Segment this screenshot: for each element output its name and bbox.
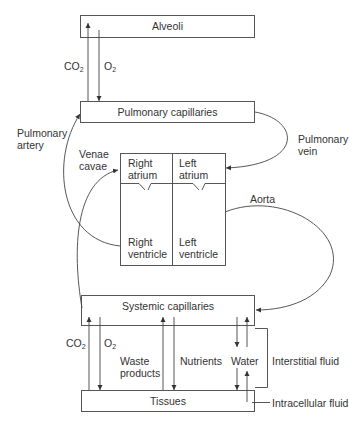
pulmonary-artery-line1: Pulmonary: [17, 127, 67, 139]
pulmonary-artery-path: [64, 114, 120, 246]
pulmonary-vein-label: Pulmonary vein: [298, 133, 348, 157]
aorta-label: Aorta: [250, 193, 275, 205]
left-ventricle-line2: ventricle: [179, 248, 218, 260]
left-atrium-line2: atrium: [179, 169, 208, 181]
circulation-diagram-lines: [0, 0, 363, 432]
venae-cavae-label: Venae cavae: [79, 148, 109, 172]
waste-line1: Waste: [120, 355, 160, 367]
co2-tissues-sub: 2: [82, 343, 86, 350]
tissues-label: Tissues: [81, 395, 255, 407]
left-ventricle-line1: Left: [179, 236, 218, 248]
systemic-capillaries-label: Systemic capillaries: [81, 300, 255, 312]
o2-lungs-sub: 2: [112, 66, 116, 73]
right-atrium-line1: Right: [128, 157, 157, 169]
co2-lungs-base: CO: [64, 60, 80, 72]
nutrients-label: Nutrients: [180, 355, 222, 367]
pulmonary-vein-path: [226, 112, 287, 168]
interstitial-fluid-label: Interstitial fluid: [272, 355, 339, 367]
water-label: Water: [231, 355, 259, 367]
pulmonary-vein-line1: Pulmonary: [298, 133, 348, 145]
aorta-path: [225, 206, 333, 310]
pulmonary-capillaries-label: Pulmonary capillaries: [80, 106, 255, 118]
pulmonary-vein-line2: vein: [298, 145, 348, 157]
o2-tissues-base: O: [104, 337, 112, 349]
co2-tissues-base: CO: [66, 337, 82, 349]
waste-line2: products: [120, 367, 160, 379]
o2-tissues-sub: 2: [112, 343, 116, 350]
left-ventricle-label: Left ventricle: [179, 236, 218, 260]
venae-cavae-line1: Venae: [79, 148, 109, 160]
co2-lungs-sub: 2: [80, 66, 84, 73]
co2-label-lungs: CO2: [64, 60, 84, 76]
venae-cavae-line2: cavae: [79, 160, 109, 172]
left-atrium-line1: Left: [179, 157, 208, 169]
o2-lungs-base: O: [104, 60, 112, 72]
right-ventricle-line1: Right: [128, 236, 167, 248]
left-atrium-label: Left atrium: [179, 157, 208, 181]
o2-label-lungs: O2: [104, 60, 116, 76]
co2-label-tissues: CO2: [66, 337, 86, 353]
right-atrium-label: Right atrium: [128, 157, 157, 181]
alveoli-label: Alveoli: [80, 20, 255, 32]
right-ventricle-line2: ventricle: [128, 248, 167, 260]
pulmonary-artery-label: Pulmonary artery: [17, 127, 67, 151]
o2-label-tissues: O2: [104, 337, 116, 353]
right-ventricle-label: Right ventricle: [128, 236, 167, 260]
right-atrium-line2: atrium: [128, 169, 157, 181]
intracellular-fluid-label: Intracellular fluid: [272, 397, 348, 409]
waste-products-label: Waste products: [120, 355, 160, 379]
pulmonary-artery-line2: artery: [17, 139, 67, 151]
